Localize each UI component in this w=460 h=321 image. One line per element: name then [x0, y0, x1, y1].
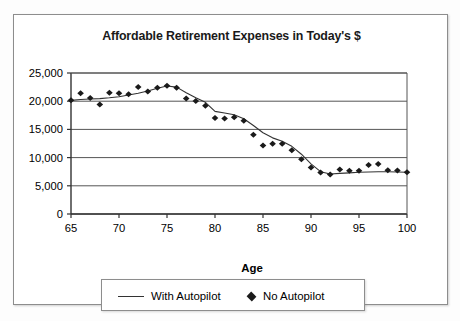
x-tick-label: 90: [305, 222, 317, 234]
x-axis-title: Age: [241, 262, 263, 274]
series-line-path: [71, 86, 407, 174]
data-point-marker: [365, 162, 372, 168]
data-point-marker: [279, 141, 286, 147]
x-tick-label: 85: [257, 222, 269, 234]
x-tick-label: 70: [113, 222, 125, 234]
data-point-marker: [394, 168, 401, 174]
data-point-marker: [385, 167, 392, 173]
data-point-marker: [375, 161, 382, 167]
data-point-marker: [125, 91, 132, 97]
y-tick-label: 10,000: [29, 152, 63, 164]
data-point-marker: [202, 103, 209, 109]
data-point-marker: [241, 118, 248, 124]
y-tick-label: 5,000: [35, 180, 63, 192]
data-point-marker: [87, 95, 94, 101]
data-point-marker: [106, 90, 113, 96]
data-point-marker: [327, 172, 334, 178]
data-point-marker: [97, 102, 104, 108]
data-point-marker: [221, 115, 228, 121]
gridlines: [71, 73, 407, 214]
data-point-marker: [183, 95, 190, 101]
x-tick-label: 95: [353, 222, 365, 234]
data-point-marker: [404, 169, 411, 175]
x-tick-label: 80: [209, 222, 221, 234]
x-tick-label: 65: [65, 222, 77, 234]
line-chart-svg: 05,00010,00015,00020,00025,000 657075808…: [14, 15, 449, 306]
data-point-marker: [145, 89, 152, 95]
data-point-marker: [116, 90, 123, 96]
data-point-marker: [164, 83, 171, 89]
data-point-marker: [77, 90, 84, 96]
legend-item-with-autopilot: With Autopilot: [118, 280, 221, 312]
figure-canvas: Affordable Retirement Expenses in Today'…: [0, 0, 460, 321]
data-point-marker: [260, 142, 267, 148]
data-point-marker: [269, 141, 276, 147]
y-tick-label: 0: [57, 208, 63, 220]
x-tick-label: 100: [398, 222, 417, 234]
series-with-autopilot-line: [71, 86, 407, 174]
legend-item-no-autopilot: No Autopilot: [247, 280, 324, 312]
y-axis-tick-labels: 05,00010,00015,00020,00025,000: [29, 67, 63, 220]
data-point-marker: [250, 132, 257, 138]
chart-legend: With Autopilot No Autopilot: [101, 279, 365, 311]
data-point-marker: [173, 85, 180, 91]
diamond-marker-icon: [247, 291, 257, 301]
plot-area-wrapper: 05,00010,00015,00020,00025,000 657075808…: [14, 15, 449, 306]
plot-border: [71, 73, 407, 214]
legend-label-no-autopilot: No Autopilot: [263, 290, 324, 302]
data-point-marker: [212, 115, 219, 121]
legend-label-with-autopilot: With Autopilot: [151, 290, 221, 302]
data-point-marker: [68, 97, 75, 103]
chart-frame: Affordable Retirement Expenses in Today'…: [13, 14, 448, 305]
data-point-marker: [337, 166, 344, 172]
data-point-marker: [356, 168, 363, 174]
data-point-marker: [154, 85, 161, 91]
line-swatch-icon: [118, 296, 144, 297]
data-point-marker: [135, 84, 142, 90]
x-tick-label: 75: [161, 222, 173, 234]
y-tick-label: 20,000: [29, 95, 63, 107]
x-axis-tick-labels: 65707580859095100: [65, 222, 417, 234]
y-tick-label: 25,000: [29, 67, 63, 79]
y-tick-label: 15,000: [29, 123, 63, 135]
